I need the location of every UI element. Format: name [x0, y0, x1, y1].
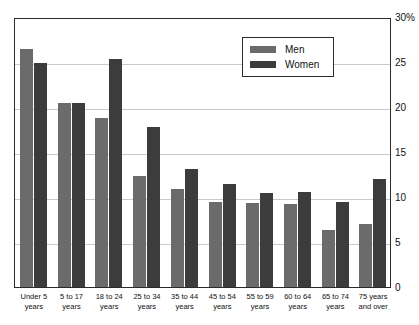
x-axis-tick-label: 65 to 74years: [317, 292, 355, 311]
bar-men: [58, 103, 71, 287]
x-axis-tick-label: 60 to 64years: [279, 292, 317, 311]
legend-item-women: Women: [243, 57, 333, 72]
chart-legend: Men Women: [242, 37, 334, 77]
bar-group: [204, 19, 242, 287]
x-axis-tick-label: 5 to 17years: [53, 292, 91, 311]
bar-men: [246, 203, 259, 287]
bar-group: [15, 19, 53, 287]
bar-women: [185, 169, 198, 287]
x-axis-labels: Under 5years5 to 17years18 to 24years25 …: [15, 292, 390, 322]
bar-men: [133, 176, 146, 287]
x-axis-tick-label: 55 to 59years: [241, 292, 279, 311]
x-axis-tick-label: 45 to 54years: [204, 292, 242, 311]
legend-swatch-men-icon: [250, 46, 276, 53]
bar-men: [359, 224, 372, 287]
bar-women: [373, 179, 386, 287]
y-axis-tick-label: 10: [395, 193, 406, 203]
bar-group: [166, 19, 204, 287]
x-axis-tick-label: 25 to 34years: [128, 292, 166, 311]
y-axis-tick-label: 0: [395, 283, 401, 293]
y-axis-tick-label: 15: [395, 148, 406, 158]
bar-chart: Men Women 30%2520151050 Under 5years5 to…: [0, 0, 419, 325]
x-axis-tick-label: Under 5years: [15, 292, 53, 311]
bar-group: [128, 19, 166, 287]
legend-item-men: Men: [243, 42, 333, 57]
bar-men: [20, 49, 33, 287]
bar-women: [260, 193, 273, 287]
bar-men: [95, 118, 108, 287]
bar-women: [109, 59, 122, 287]
bar-group: [354, 19, 392, 287]
x-axis-tick-label: 75 yearsand over: [354, 292, 392, 311]
bar-group: [90, 19, 128, 287]
legend-label-women: Women: [285, 60, 319, 70]
y-axis-tick-label: 5: [395, 238, 401, 248]
plot-area: [14, 18, 391, 288]
y-axis-tick-label: 30%: [395, 13, 415, 23]
bar-men: [171, 189, 184, 287]
legend-label-men: Men: [285, 45, 304, 55]
bar-women: [72, 103, 85, 287]
bar-group: [53, 19, 91, 287]
bar-women: [336, 202, 349, 287]
bar-men: [209, 202, 222, 287]
x-axis-tick-label: 18 to 24years: [90, 292, 128, 311]
y-axis-tick-label: 20: [395, 103, 406, 113]
bar-women: [147, 127, 160, 287]
bar-women: [34, 63, 47, 287]
x-axis-tick-label: 35 to 44years: [166, 292, 204, 311]
bar-women: [298, 192, 311, 287]
bar-men: [322, 230, 335, 287]
bar-women: [223, 184, 236, 287]
legend-swatch-women-icon: [250, 61, 276, 68]
bar-men: [284, 204, 297, 287]
y-axis-tick-label: 25: [395, 58, 406, 68]
